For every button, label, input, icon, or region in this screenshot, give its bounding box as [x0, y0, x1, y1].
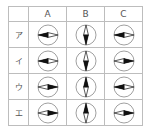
compass-needle-icon: [67, 50, 104, 72]
compass-cell-a: [29, 100, 67, 126]
compass-cell-c: [105, 74, 143, 100]
compass-cell-b: [67, 22, 105, 48]
row-label: エ: [9, 100, 29, 126]
compass-cell-a: [29, 74, 67, 100]
compass-cell-a: [29, 22, 67, 48]
compass-needle-icon: [29, 102, 66, 124]
row-label: ア: [9, 22, 29, 48]
compass-needle-icon: [29, 76, 66, 98]
table-row: ウ: [9, 74, 143, 100]
compass-needle-icon: [67, 76, 104, 98]
table-row: イ: [9, 48, 143, 74]
compass-needle-icon: [105, 102, 142, 124]
column-header-a: A: [29, 7, 67, 22]
header-row: A B C: [9, 7, 143, 22]
column-header-c: C: [105, 7, 143, 22]
compass-cell-c: [105, 48, 143, 74]
compass-needle-icon: [105, 50, 142, 72]
compass-needle-icon: [67, 24, 104, 46]
compass-needle-icon: [29, 24, 66, 46]
row-label: イ: [9, 48, 29, 74]
compass-cell-b: [67, 74, 105, 100]
compass-cell-a: [29, 48, 67, 74]
compass-needle-icon: [105, 76, 142, 98]
row-label: ウ: [9, 74, 29, 100]
corner-cell: [9, 7, 29, 22]
compass-cell-b: [67, 48, 105, 74]
compass-table: A B C アイウエ: [8, 6, 143, 126]
compass-cell-c: [105, 100, 143, 126]
compass-cell-b: [67, 100, 105, 126]
column-header-b: B: [67, 7, 105, 22]
compass-needle-icon: [29, 50, 66, 72]
compass-needle-icon: [105, 24, 142, 46]
compass-needle-icon: [67, 102, 104, 124]
table-row: エ: [9, 100, 143, 126]
compass-cell-c: [105, 22, 143, 48]
table-row: ア: [9, 22, 143, 48]
